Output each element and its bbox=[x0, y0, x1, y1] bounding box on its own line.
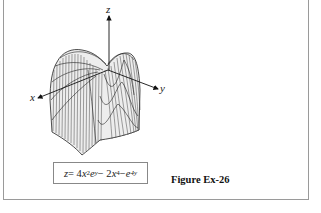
formula-op: − 2 bbox=[98, 168, 112, 179]
y-axis-label: y bbox=[160, 82, 165, 94]
z-axis-label: z bbox=[106, 3, 110, 15]
figure-caption: Figure Ex-26 bbox=[171, 174, 229, 185]
x-axis-label: x bbox=[30, 91, 35, 103]
surface-plot bbox=[0, 0, 321, 213]
formula-term: x bbox=[82, 168, 87, 179]
wireframe-surface bbox=[50, 50, 140, 156]
formula-eq: = 4 bbox=[68, 168, 82, 179]
formula-box: z = 4 x2 ey − 2 x4 − e4y bbox=[53, 162, 148, 184]
formula-exp: 4y bbox=[130, 169, 137, 177]
